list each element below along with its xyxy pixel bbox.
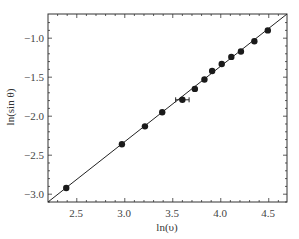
x-tick-label: 3.5 xyxy=(165,207,179,219)
data-point xyxy=(119,141,125,147)
chart-canvas: 2.5 3.0 3.5 4.0 4.5 −1.0 −1.5 −2.0 −2.5 … xyxy=(0,0,299,239)
data-point xyxy=(201,76,207,82)
data-point xyxy=(192,86,198,92)
x-tick-label: 2.5 xyxy=(69,207,83,219)
data-point xyxy=(63,185,69,191)
y-tick-label: −2.5 xyxy=(24,149,44,161)
x-axis-label: ln(υ) xyxy=(156,221,178,234)
y-tick-label: −1.0 xyxy=(24,32,44,44)
data-point xyxy=(228,54,234,60)
y-tick-label: −3.0 xyxy=(24,188,44,200)
data-point xyxy=(159,109,165,115)
data-point xyxy=(209,68,215,74)
x-tick-label: 3.0 xyxy=(117,207,131,219)
data-point xyxy=(219,61,225,67)
y-axis-label: ln(sin θ) xyxy=(4,88,17,125)
data-point xyxy=(179,97,185,103)
x-tick-label: 4.0 xyxy=(213,207,227,219)
x-tick-label: 4.5 xyxy=(261,207,275,219)
fit-line xyxy=(48,14,287,202)
data-point xyxy=(142,123,148,129)
data-point xyxy=(251,38,257,44)
data-point xyxy=(265,27,271,33)
y-tick-label: −2.0 xyxy=(24,110,44,122)
y-tick-label: −1.5 xyxy=(24,71,44,83)
data-point xyxy=(238,48,244,54)
